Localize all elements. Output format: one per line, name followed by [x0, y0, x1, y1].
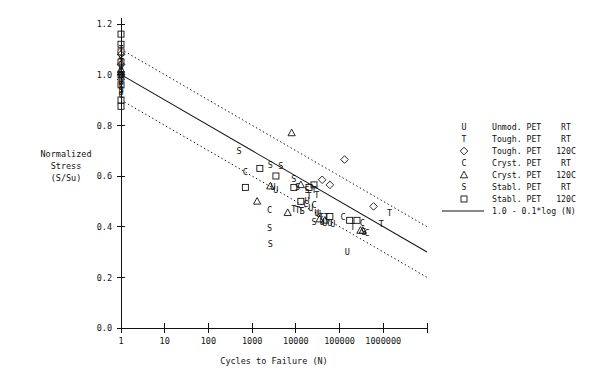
x-tick-label: 10000 [283, 336, 309, 346]
legend-marker [460, 147, 468, 155]
data-point [257, 165, 263, 171]
data-point: S [300, 206, 305, 216]
data-point: S [311, 217, 316, 227]
legend-temp: RT [561, 134, 571, 144]
y-tick-label: 0.6 [97, 171, 112, 181]
data-point: C [311, 200, 316, 210]
data-point [273, 173, 279, 179]
data-point: U [345, 247, 350, 257]
data-point [242, 184, 248, 190]
data-point: S [268, 160, 273, 170]
y-axis-title-line: Stress [51, 161, 82, 171]
data-point [254, 198, 261, 205]
data-point: T [379, 219, 384, 229]
y-tick-label: 0.2 [97, 273, 112, 283]
y-axis-title-line: (S/Su) [51, 173, 82, 183]
data-point [341, 156, 349, 164]
chart-canvas: 0.00.20.40.60.81.01.21101001000100001000… [0, 0, 604, 386]
y-tick-label: 1.2 [97, 19, 112, 29]
data-point: S [267, 223, 272, 233]
x-axis-title: Cycles to Failure (N) [220, 356, 327, 366]
legend-material: Stabl. PET [492, 194, 541, 204]
y-tick-label: 0.0 [97, 323, 112, 333]
legend-marker: U [462, 122, 467, 132]
data-point: U [330, 219, 335, 229]
legend-material: Unmod. PET [492, 122, 541, 132]
legend-temp: 120C [556, 170, 576, 180]
legend-temp: RT [561, 182, 571, 192]
data-point [284, 209, 291, 216]
legend-marker [460, 171, 467, 178]
data-point: S [268, 239, 273, 249]
x-tick-label: 1000 [242, 336, 262, 346]
data-point: C [267, 205, 272, 215]
x-tick-label: 1000000 [365, 336, 401, 346]
x-tick-label: 100000 [324, 336, 355, 346]
data-point [326, 181, 334, 189]
data-point: S [118, 85, 123, 95]
data-point [370, 203, 378, 211]
legend-material: Tough. PET [492, 146, 541, 156]
data-point: S [278, 161, 283, 171]
data-point: U [273, 185, 278, 195]
bound-line-upper [121, 49, 427, 226]
y-tick-label: 0.4 [97, 222, 112, 232]
data-point: S [118, 54, 123, 64]
legend-marker: S [462, 182, 467, 192]
legend-marker [461, 196, 467, 202]
x-tick-label: 1 [118, 336, 123, 346]
y-tick-label: 0.8 [97, 121, 112, 131]
legend-temp: 120C [556, 194, 576, 204]
legend-temp: RT [561, 158, 571, 168]
legend-material: Stabl. PET [492, 182, 541, 192]
y-tick-label: 1.0 [97, 70, 112, 80]
data-point: S [118, 67, 123, 77]
legend-temp: RT [561, 122, 571, 132]
legend-marker: T [462, 134, 467, 144]
legend-material: Cryst. PET [492, 158, 541, 168]
data-point [318, 176, 326, 184]
data-point: S [304, 185, 309, 195]
legend-marker: C [462, 158, 467, 168]
legend-temp: 120C [556, 146, 576, 156]
legend-material: Cryst. PET [492, 170, 541, 180]
x-tick-label: 10 [160, 336, 170, 346]
data-point: S [295, 182, 300, 192]
data-point: C [243, 167, 248, 177]
data-point: S [361, 227, 366, 237]
data-point: C [340, 212, 345, 222]
data-point: T [314, 190, 319, 200]
y-axis-title-line: Normalized [40, 149, 91, 159]
legend-line-label: 1.0 - 0.1*log (N) [492, 206, 576, 216]
data-point: S [236, 146, 241, 156]
data-point [288, 129, 295, 136]
chart-figure: 0.00.20.40.60.81.01.21101001000100001000… [0, 0, 604, 386]
legend-material: Tough. PET [492, 134, 541, 144]
data-point: T [387, 208, 392, 218]
x-tick-label: 100 [201, 336, 216, 346]
